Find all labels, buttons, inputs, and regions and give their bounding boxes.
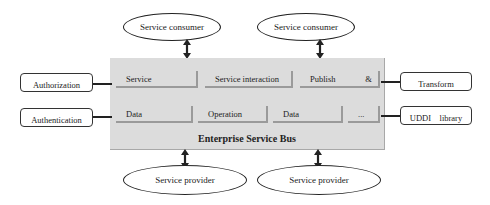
service-consumer-2: Service consumer <box>257 13 355 41</box>
connector-line <box>93 83 112 85</box>
service-provider-2: Service provider <box>257 165 381 195</box>
connector-line <box>381 115 401 117</box>
transform-box: Transform <box>400 72 472 91</box>
service-consumer-2-label: Service consumer <box>274 22 338 32</box>
module-publish: Publish & <box>300 71 380 88</box>
uddi-library-box: UDDI library <box>400 106 472 125</box>
connector-line <box>93 116 112 118</box>
module-data-2-label: Data <box>283 109 299 119</box>
service-provider-1-label: Service provider <box>155 175 215 185</box>
module-data-1-label: Data <box>126 109 142 119</box>
uddi-library-label: UDDI library <box>410 113 462 123</box>
service-provider-2-label: Service provider <box>289 175 349 185</box>
module-data-1: Data <box>116 106 193 123</box>
service-provider-1: Service provider <box>123 165 247 195</box>
double-arrow-icon <box>315 39 325 59</box>
module-publish-label: Publish & <box>310 74 372 84</box>
module-ellipsis: ... <box>348 106 380 123</box>
module-ellipsis-label: ... <box>358 109 364 119</box>
module-service-interaction-label: Service interaction <box>215 74 279 84</box>
module-data-2: Data <box>273 106 343 123</box>
connector-line <box>381 81 401 83</box>
module-operation-label: Operation <box>208 109 242 119</box>
transform-label: Transform <box>418 79 454 89</box>
module-service: Service <box>116 71 198 88</box>
bus-title: Enterprise Service Bus <box>110 133 384 144</box>
service-consumer-1: Service consumer <box>123 13 221 41</box>
service-consumer-1-label: Service consumer <box>140 22 204 32</box>
authorization-label: Authorization <box>33 80 80 90</box>
module-operation: Operation <box>198 106 268 123</box>
double-arrow-icon <box>182 39 192 59</box>
module-service-interaction: Service interaction <box>205 71 293 88</box>
enterprise-service-bus: Service Service interaction Publish & Da… <box>110 58 385 150</box>
authentication-box: Authentication <box>20 108 93 127</box>
module-service-label: Service <box>126 74 152 84</box>
authorization-box: Authorization <box>20 73 93 92</box>
authentication-label: Authentication <box>31 115 82 125</box>
